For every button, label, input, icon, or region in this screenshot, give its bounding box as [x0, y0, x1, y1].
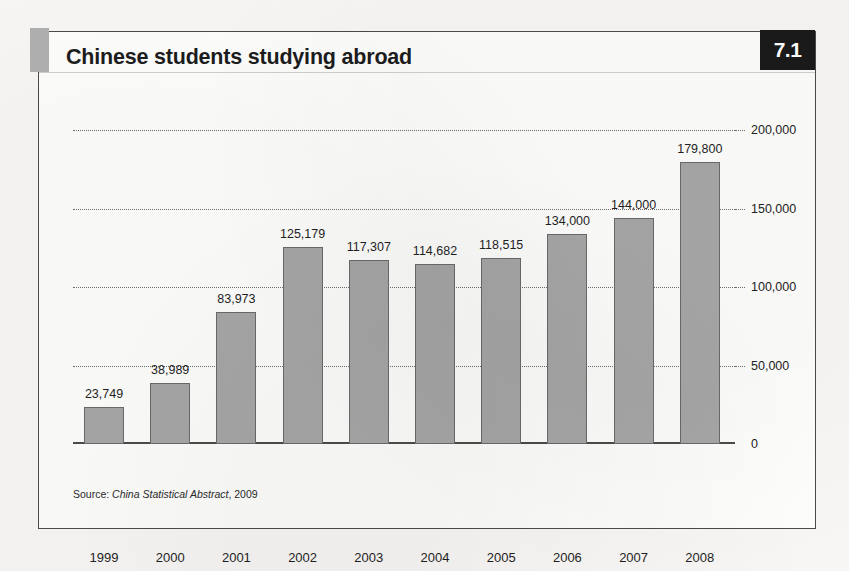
bar-slot — [603, 130, 665, 444]
bar-2000 — [150, 383, 190, 444]
x-axis-label-2002: 2002 — [272, 550, 334, 565]
bar-value-label: 134,000 — [536, 214, 598, 228]
y-axis-tick — [735, 287, 745, 288]
x-axis-label-2004: 2004 — [404, 550, 466, 565]
bar-value-label: 118,515 — [470, 238, 532, 252]
bar-slot — [338, 130, 400, 444]
bar-2006 — [547, 234, 587, 444]
y-axis-tick — [735, 130, 745, 131]
bar-2005 — [481, 258, 521, 444]
source-suffix: , 2009 — [228, 488, 257, 500]
bar-slot — [272, 130, 334, 444]
bar-value-label: 144,000 — [603, 198, 665, 212]
y-axis-label: 200,000 — [751, 123, 796, 137]
figure-frame: Chinese students studying abroad 7.1 050… — [38, 31, 816, 529]
y-axis-label: 0 — [751, 437, 758, 451]
y-axis-label: 150,000 — [751, 202, 796, 216]
source-title: China Statistical Abstract — [112, 488, 228, 500]
bar-slot — [404, 130, 466, 444]
bar-2002 — [283, 247, 323, 444]
figure-header: Chinese students studying abroad 7.1 — [39, 32, 815, 90]
bar-2007 — [614, 218, 654, 444]
bar-slot — [139, 130, 201, 444]
bar-slot — [470, 130, 532, 444]
x-axis-label-2006: 2006 — [536, 550, 598, 565]
bars-group: 23,74938,98983,973125,179117,307114,6821… — [73, 130, 735, 444]
header-divider — [39, 72, 815, 73]
x-axis-label-2003: 2003 — [338, 550, 400, 565]
corner-accent-bar — [30, 28, 49, 72]
y-axis-label: 100,000 — [751, 280, 796, 294]
figure-source-note: Source: China Statistical Abstract, 2009 — [73, 488, 258, 500]
y-axis-tick — [735, 366, 745, 367]
bar-slot — [205, 130, 267, 444]
bar-value-label: 114,682 — [404, 244, 466, 258]
figure-number-badge: 7.1 — [760, 30, 815, 70]
bar-2008 — [680, 162, 720, 444]
x-axis-label-2001: 2001 — [205, 550, 267, 565]
bar-2003 — [349, 260, 389, 444]
bar-1999 — [84, 407, 124, 444]
bar-2004 — [415, 264, 455, 444]
x-axis-label-2005: 2005 — [470, 550, 532, 565]
bar-value-label: 179,800 — [669, 142, 731, 156]
source-prefix: Source: — [73, 488, 109, 500]
y-axis-label: 50,000 — [751, 359, 789, 373]
x-axis-label-2008: 2008 — [669, 550, 731, 565]
bar-slot — [669, 130, 731, 444]
bar-value-label: 23,749 — [73, 387, 135, 401]
bar-slot — [536, 130, 598, 444]
bar-value-label: 117,307 — [338, 240, 400, 254]
x-axis-label-1999: 1999 — [73, 550, 135, 565]
x-axis-label-2000: 2000 — [139, 550, 201, 565]
chart-plot-area: 050,000100,000150,000200,000 23,74938,98… — [73, 130, 735, 444]
x-axis-label-2007: 2007 — [603, 550, 665, 565]
bar-value-label: 83,973 — [205, 292, 267, 306]
bar-value-label: 125,179 — [272, 227, 334, 241]
bar-value-label: 38,989 — [139, 363, 201, 377]
page-title: Chinese students studying abroad — [66, 45, 412, 70]
y-axis-tick — [735, 209, 745, 210]
bar-2001 — [216, 312, 256, 444]
